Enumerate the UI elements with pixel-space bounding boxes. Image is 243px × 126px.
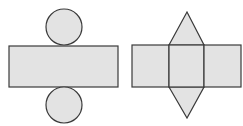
- prism-left-rectangle: [132, 45, 169, 87]
- prism-net: [132, 12, 241, 118]
- prism-bottom-triangle: [169, 87, 204, 118]
- cylinder-lateral-rectangle: [9, 46, 118, 87]
- prism-center-rectangle: [169, 45, 204, 87]
- cylinder-net: [9, 9, 118, 123]
- prism-right-rectangle: [204, 45, 241, 87]
- cylinder-top-circle: [46, 9, 82, 45]
- cylinder-bottom-circle: [46, 87, 82, 123]
- nets-diagram: [0, 0, 243, 126]
- prism-top-triangle: [169, 12, 204, 45]
